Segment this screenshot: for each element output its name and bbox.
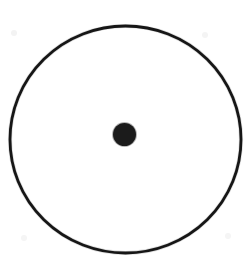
- scan-speck-top-left: [11, 30, 17, 36]
- figure-canvas: Circle with marked centre point: [0, 0, 252, 266]
- scan-speck-bottom-left: [21, 235, 27, 241]
- circle-figure: [0, 0, 252, 266]
- center-point-group: [112, 122, 137, 147]
- scan-speck-top-right: [202, 32, 208, 38]
- center-point: [113, 123, 136, 146]
- scan-speck-bottom-right: [225, 233, 231, 239]
